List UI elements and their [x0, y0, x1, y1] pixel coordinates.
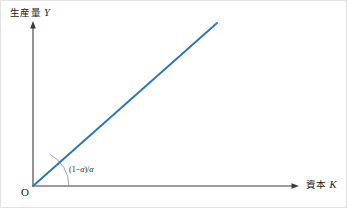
- slope-angle-arc: [50, 154, 69, 186]
- y-axis-label: 生産量Y: [10, 8, 50, 19]
- x-axis-label: 資本K: [306, 180, 337, 191]
- x-axis-label-text: 資本: [306, 179, 327, 190]
- plot-area: [1, 1, 347, 208]
- y-axis-variable: Y: [41, 7, 50, 18]
- slope-angle-label: (1−α)/α: [69, 166, 94, 174]
- x-axis-arrowhead: [292, 183, 300, 189]
- figure-container: 生産量Y 資本K O (1−α)/α: [0, 0, 347, 208]
- x-axis-variable: K: [327, 179, 337, 190]
- production-function-line: [33, 23, 217, 186]
- y-axis-arrowhead: [30, 21, 36, 29]
- origin-label: O: [21, 187, 29, 198]
- y-axis-label-text: 生産量: [10, 7, 41, 18]
- slope-alpha-denominator: α: [89, 165, 93, 174]
